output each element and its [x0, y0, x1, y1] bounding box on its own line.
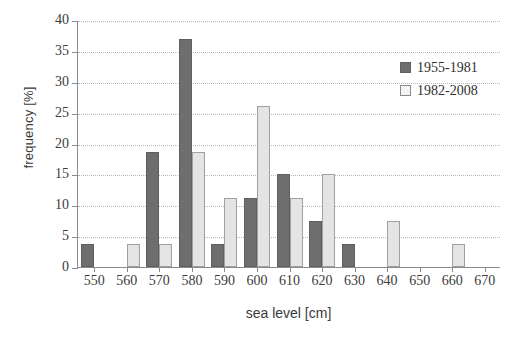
y-axis-tick — [72, 268, 78, 269]
y-axis-tick-label: 30 — [29, 74, 69, 90]
y-axis-tick — [72, 52, 78, 53]
bar — [211, 244, 224, 267]
legend: 1955-19811982-2008 — [400, 56, 478, 102]
x-axis-tick — [159, 267, 160, 272]
legend-swatch-icon — [400, 62, 411, 73]
x-axis-tick — [290, 267, 291, 272]
bar — [224, 198, 237, 267]
legend-item: 1982-2008 — [400, 79, 478, 102]
bar — [81, 244, 94, 267]
x-axis-tick — [322, 267, 323, 272]
legend-swatch-icon — [400, 85, 411, 96]
x-axis-tick — [485, 267, 486, 272]
gridline — [78, 145, 500, 146]
bar — [277, 174, 290, 267]
y-axis-tick — [72, 175, 78, 176]
bar — [387, 221, 400, 267]
legend-label: 1955-1981 — [417, 60, 478, 76]
y-axis-tick — [72, 83, 78, 84]
y-axis-tick — [72, 206, 78, 207]
y-axis-tick-label: 10 — [29, 197, 69, 213]
x-axis-tick-label: 670 — [463, 273, 507, 289]
x-axis-tick — [257, 267, 258, 272]
bar — [342, 244, 355, 267]
y-axis-tick-label: 40 — [29, 12, 69, 28]
bar — [257, 106, 270, 267]
histogram-chart: frequency [%] 0510152025303540 550560570… — [0, 0, 530, 346]
bar — [127, 244, 140, 267]
y-axis-tick — [72, 114, 78, 115]
bar — [192, 152, 205, 267]
bar — [146, 152, 159, 267]
legend-item: 1955-1981 — [400, 56, 478, 79]
bar — [244, 198, 257, 267]
y-axis-tick-label: 5 — [29, 228, 69, 244]
y-axis-tick-label: 15 — [29, 166, 69, 182]
x-axis-tick — [452, 267, 453, 272]
bar — [322, 174, 335, 267]
gridline — [78, 52, 500, 53]
y-axis-tick-label: 25 — [29, 105, 69, 121]
y-axis-tick-label: 0 — [29, 259, 69, 275]
gridline — [78, 114, 500, 115]
y-axis-tick-label: 20 — [29, 136, 69, 152]
x-axis-tick — [420, 267, 421, 272]
y-axis-tick — [72, 21, 78, 22]
y-axis-title: frequency [%] — [21, 38, 36, 218]
y-axis-tick — [72, 145, 78, 146]
bar — [159, 244, 172, 267]
bar — [452, 244, 465, 267]
x-axis-tick — [387, 267, 388, 272]
x-axis-tick — [192, 267, 193, 272]
legend-label: 1982-2008 — [417, 83, 478, 99]
x-axis-tick — [127, 267, 128, 272]
gridline — [78, 21, 500, 22]
bar — [290, 198, 303, 267]
bar — [309, 221, 322, 267]
x-axis-title: sea level [cm] — [77, 305, 500, 321]
y-axis-tick-label: 35 — [29, 43, 69, 59]
x-axis-tick — [224, 267, 225, 272]
x-axis-tick — [355, 267, 356, 272]
y-axis-tick — [72, 237, 78, 238]
bar — [179, 39, 192, 267]
x-axis-tick — [94, 267, 95, 272]
